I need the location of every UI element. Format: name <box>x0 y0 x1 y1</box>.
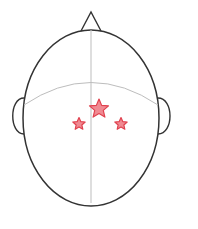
nose-triangle <box>81 12 101 31</box>
right-ear <box>158 98 170 134</box>
head-diagram-canvas <box>0 0 198 229</box>
head-diagram <box>0 0 198 229</box>
